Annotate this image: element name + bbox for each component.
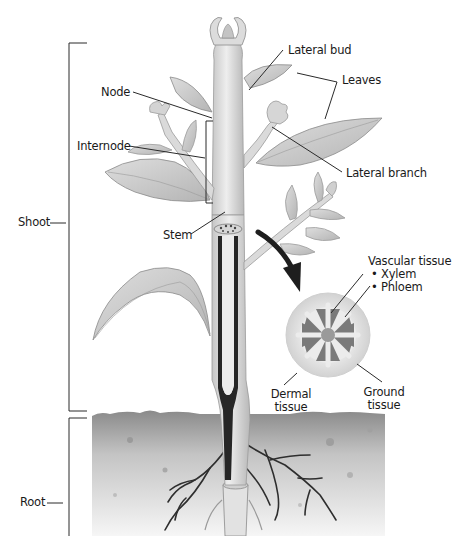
stem-label: Stem <box>163 229 192 242</box>
vascular-tissue-label: Vascular tissue • Xylem • Phloem <box>368 255 451 294</box>
lower-right-branch <box>244 172 345 270</box>
cross-section-arrow <box>258 232 301 292</box>
lateral-bud-label: Lateral bud <box>288 44 351 57</box>
internode-label: Internode <box>77 140 131 153</box>
ground-tissue-label: Ground tissue <box>359 386 409 412</box>
dermal-tissue-label: Dermal tissue <box>266 388 316 414</box>
ground-line-2: tissue <box>359 399 409 412</box>
leaves-label: Leaves <box>342 74 381 87</box>
region-brackets <box>47 43 87 536</box>
dermal-line-2: tissue <box>266 401 316 414</box>
phloem-item: • Phloem <box>368 281 451 294</box>
shoot-label: Shoot <box>18 216 50 229</box>
lateral-branch-label: Lateral branch <box>346 167 427 180</box>
root-label: Root <box>20 496 45 509</box>
node-label: Node <box>101 86 130 99</box>
